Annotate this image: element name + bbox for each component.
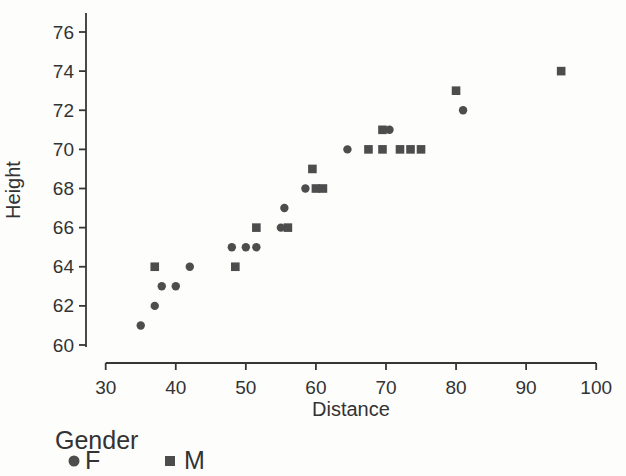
x-axis-tick-label: 80 xyxy=(445,377,466,398)
y-axis-tick-label: 64 xyxy=(53,256,75,277)
scatter-plot-figure: 30405060708090100Distance606264666870727… xyxy=(0,0,626,476)
x-axis-tick-label: 70 xyxy=(375,377,396,398)
data-point-m xyxy=(378,145,387,154)
data-point-f xyxy=(459,106,467,114)
data-point-f xyxy=(158,282,166,290)
data-point-f xyxy=(172,282,180,290)
y-axis-tick-label: 72 xyxy=(53,100,74,121)
data-point-m xyxy=(452,86,461,95)
x-axis-tick-label: 30 xyxy=(95,377,116,398)
data-point-f xyxy=(186,263,194,271)
data-point-m xyxy=(252,223,261,232)
legend-marker-square-icon xyxy=(165,456,175,466)
y-axis-tick-label: 76 xyxy=(53,22,74,43)
y-axis-tick-label: 70 xyxy=(53,139,74,160)
x-axis-tick-label: 60 xyxy=(305,377,326,398)
data-point-m xyxy=(150,262,159,271)
chart-canvas: 30405060708090100Distance606264666870727… xyxy=(0,0,626,476)
data-point-m xyxy=(378,126,387,135)
data-point-f xyxy=(151,302,159,310)
data-point-m xyxy=(319,184,328,193)
legend-marker-circle-icon xyxy=(69,456,80,467)
y-axis-tick-label: 62 xyxy=(53,295,74,316)
data-point-m xyxy=(396,145,405,154)
y-axis-title: Height xyxy=(2,161,24,219)
legend-label-f: F xyxy=(85,446,100,474)
data-point-f xyxy=(137,321,145,329)
data-point-m xyxy=(231,262,240,271)
x-axis-tick-label: 90 xyxy=(516,377,537,398)
data-point-m xyxy=(417,145,426,154)
data-point-m xyxy=(364,145,373,154)
data-point-f xyxy=(252,243,260,251)
data-point-m xyxy=(284,223,293,232)
data-point-f xyxy=(242,243,250,251)
x-axis-tick-label: 50 xyxy=(235,377,256,398)
data-point-f xyxy=(228,243,236,251)
y-axis-tick-label: 74 xyxy=(53,61,75,82)
data-point-f xyxy=(343,145,351,153)
x-axis-tick-label: 100 xyxy=(580,377,612,398)
y-axis-tick-label: 60 xyxy=(53,335,74,356)
data-point-f xyxy=(280,204,288,212)
data-point-m xyxy=(308,165,317,174)
y-axis-tick-label: 68 xyxy=(53,178,74,199)
data-point-f xyxy=(301,184,309,192)
legend-label-m: M xyxy=(184,446,205,474)
x-axis-title: Distance xyxy=(312,398,390,420)
y-axis-tick-label: 66 xyxy=(53,217,74,238)
data-point-m xyxy=(406,145,415,154)
data-point-m xyxy=(557,67,566,76)
x-axis-tick-label: 40 xyxy=(165,377,186,398)
